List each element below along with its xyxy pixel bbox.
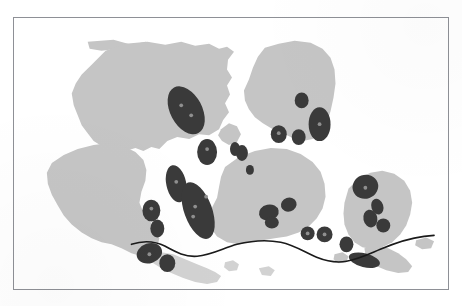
figure-page — [0, 0, 462, 306]
patch-15-body — [230, 142, 240, 156]
small-island-a — [224, 260, 239, 271]
patch-11-core-1 — [318, 122, 322, 126]
patch-14-body — [246, 165, 254, 175]
patch-09-body — [159, 254, 175, 272]
southwest-landmass — [47, 143, 159, 256]
landmass-layer — [47, 40, 434, 284]
patch-06-core-1 — [149, 207, 153, 211]
patch-07 — [150, 220, 164, 238]
patch-08-core-1 — [147, 252, 151, 256]
patch-01-core-2 — [189, 113, 193, 117]
patch-13-body — [292, 129, 306, 145]
patch-19 — [301, 226, 315, 240]
patch-02 — [197, 139, 217, 165]
small-island-c — [415, 237, 434, 249]
patch-15 — [230, 142, 240, 156]
patch-06 — [142, 200, 160, 222]
patch-05-core-3 — [191, 215, 195, 219]
patch-14 — [246, 165, 254, 175]
patch-20-core-1 — [323, 233, 327, 237]
patch-24-body — [376, 219, 390, 233]
patch-01-core-1 — [179, 103, 183, 107]
patch-19-core-1 — [306, 232, 310, 236]
patch-13 — [292, 129, 306, 145]
patch-10 — [295, 92, 309, 108]
east-horn-landmass — [218, 123, 241, 145]
patch-20 — [317, 226, 333, 242]
clipped-header-strip — [0, 0, 462, 14]
patch-05-core-2 — [204, 195, 208, 199]
patch-07-body — [150, 220, 164, 238]
patch-04-core-1 — [174, 180, 178, 184]
north-central-landmass — [72, 42, 234, 151]
patch-05-core-1 — [193, 205, 197, 209]
patch-09 — [159, 254, 175, 272]
patch-11 — [309, 107, 331, 141]
patch-18-body — [265, 217, 279, 229]
patch-24 — [376, 219, 390, 233]
map-plate-frame — [13, 17, 449, 290]
patch-02-body — [197, 139, 217, 165]
patch-25 — [340, 236, 354, 252]
patch-21-core-1 — [363, 186, 367, 190]
patch-06-body — [142, 200, 160, 222]
patch-10-body — [295, 92, 309, 108]
patch-18 — [265, 217, 279, 229]
patch-25-body — [340, 236, 354, 252]
patch-12-core-1 — [277, 131, 281, 135]
patch-12 — [271, 125, 287, 143]
small-island-d — [259, 266, 275, 276]
map-canvas — [14, 18, 448, 289]
patch-02-core-1 — [205, 147, 209, 151]
